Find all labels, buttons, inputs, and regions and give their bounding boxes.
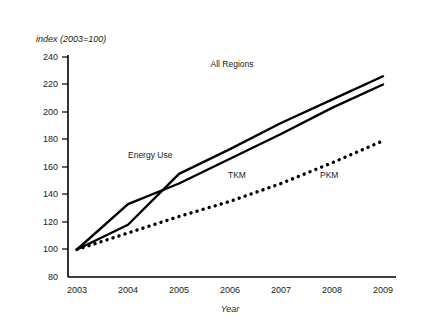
x-tick-labels: 2003 2004 2005 2006 2007 2008 2009 [67, 285, 393, 295]
series-label-pkm: PKM [320, 170, 338, 180]
x-tick-label: 2004 [118, 285, 138, 295]
y-tick-label: 180 [43, 134, 58, 144]
x-tick-label: 2009 [373, 285, 393, 295]
y-tick-label: 140 [43, 189, 58, 199]
series-label-tkm: TKM [228, 170, 246, 180]
chart-title: All Regions [211, 59, 254, 69]
y-tick-marks [62, 57, 68, 249]
y-axis-label: index (2003=100) [36, 34, 106, 44]
y-tick-label: 120 [43, 217, 58, 227]
y-tick-label: 100 [43, 244, 58, 254]
series-label-energy-use: Energy Use [128, 150, 173, 160]
series-line-tkm [77, 85, 383, 250]
x-axis-label: Year [221, 304, 241, 314]
chart-container: index (2003=100) 240 220 200 180 160 140… [0, 0, 426, 320]
series-layer [77, 76, 383, 249]
y-tick-label: 160 [43, 162, 58, 172]
line-chart: index (2003=100) 240 220 200 180 160 140… [0, 0, 426, 320]
y-tick-label: 80 [48, 272, 58, 282]
x-tick-label: 2008 [322, 285, 342, 295]
x-tick-label: 2003 [67, 285, 87, 295]
y-tick-label: 240 [43, 52, 58, 62]
y-tick-label: 220 [43, 79, 58, 89]
x-tick-label: 2005 [169, 285, 189, 295]
x-tick-label: 2006 [220, 285, 240, 295]
x-tick-label: 2007 [271, 285, 291, 295]
y-tick-label: 200 [43, 107, 58, 117]
series-line-energy-use [77, 76, 383, 249]
series-line-pkm [77, 141, 383, 250]
y-tick-labels: 240 220 200 180 160 140 120 100 80 [43, 52, 58, 282]
